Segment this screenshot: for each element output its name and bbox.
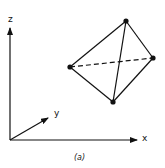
figure-caption: (a): [74, 154, 85, 162]
z-axis-label: z: [8, 15, 13, 24]
edge-top-left: [70, 21, 126, 67]
coordinate-diagram: [0, 0, 165, 168]
y-axis: [10, 118, 48, 140]
vertex-left: [67, 64, 72, 69]
y-axis-label: y: [54, 109, 59, 118]
x-axis-label: x: [142, 134, 147, 143]
edge-top-right: [126, 21, 153, 58]
edge-left-right-dashed: [70, 58, 153, 67]
vertex-right: [150, 55, 155, 60]
tetrahedron: [70, 21, 153, 102]
axes: [10, 28, 137, 140]
vertex-bottom: [110, 99, 115, 104]
vertices: [67, 18, 155, 104]
vertex-top: [123, 18, 128, 23]
edge-left-bottom: [70, 67, 113, 102]
